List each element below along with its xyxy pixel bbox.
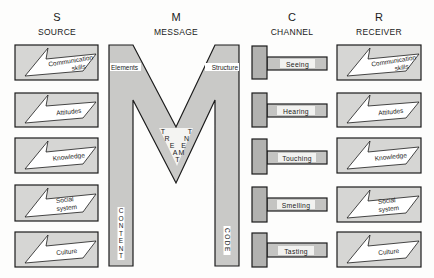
svg-text:T: T [161,128,166,135]
channel-header: C CHANNEL [271,11,314,37]
receiver-item-culture: Culture [337,232,421,267]
elements-label: Elements [111,64,139,71]
channel-item-hearing: Hearing [252,93,327,127]
channel-item-smelling: Smelling [252,187,327,222]
receiver-item-attitudes: Attitudes [337,93,421,127]
content-label: C O N T E N T [118,207,125,260]
source-title: SOURCE [38,27,76,37]
svg-text:N: N [119,222,124,229]
source-item-culture: Culture [15,232,98,267]
smcr-model-diagram: S SOURCE M MESSAGE C CHANNEL R RECEIVER … [0,0,434,278]
receiver-header: R RECEIVER [356,11,402,37]
svg-text:Hearing: Hearing [283,108,309,116]
channel-title: CHANNEL [271,27,314,37]
svg-text:Smelling: Smelling [282,202,310,210]
svg-text:N: N [184,135,189,142]
source-item-knowledge: Knowledge [15,138,98,173]
svg-text:T: T [119,252,123,259]
svg-text:C: C [119,207,124,214]
receiver-column: Communication skills Attitudes Knowledge… [337,45,421,267]
code-label: CODE [224,226,231,255]
svg-text:Seeing: Seeing [286,61,309,69]
channel-item-touching: Touching [252,139,327,174]
svg-text:N: N [119,245,124,252]
receiver-letter: R [375,11,383,23]
message-title: MESSAGE [154,27,198,37]
message-header: M MESSAGE [154,11,198,37]
svg-text:T: T [119,230,123,237]
receiver-title: RECEIVER [356,27,402,37]
source-header: S SOURCE [38,11,76,37]
source-letter: S [53,11,60,23]
receiver-item-communication-skills: Communication skills [337,45,421,80]
svg-text:E: E [181,142,186,149]
structure-label: Structure [212,64,239,71]
svg-text:CODE: CODE [224,228,231,253]
source-item-communication-skills: Communication skills [15,45,98,80]
channel-letter: C [288,11,296,23]
svg-text:Tasting: Tasting [284,248,308,256]
svg-text:Touching: Touching [282,155,312,163]
receiver-item-knowledge: Knowledge [337,138,421,173]
svg-text:T: T [175,156,180,163]
svg-text:T: T [188,128,193,135]
source-column: Communication skills Attitudes Knowledge… [15,45,98,267]
svg-text:R: R [164,135,169,142]
svg-text:M: M [179,149,185,156]
message-letter: M [171,11,180,23]
svg-text:E: E [119,237,124,244]
svg-text:E: E [170,142,175,149]
source-item-attitudes: Attitudes [15,93,98,127]
svg-text:O: O [118,215,123,222]
channel-column: Seeing Hearing Touching Smelling Tasting [252,46,327,267]
svg-text:A: A [173,149,178,156]
message-m-shape: Elements Structure T R E A T M E N T C O… [109,45,239,266]
channel-item-seeing: Seeing [252,46,327,79]
receiver-item-social-system: Social system [337,187,421,222]
source-item-social-system: Social system [15,185,98,221]
channel-item-tasting: Tasting [252,233,327,267]
